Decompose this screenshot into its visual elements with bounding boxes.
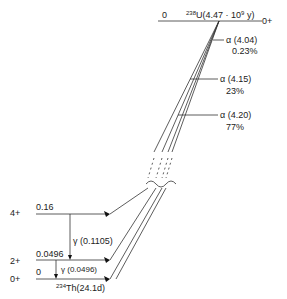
level-0plus-spin: 0+ bbox=[10, 275, 20, 284]
alpha-3-upper bbox=[168, 21, 219, 152]
daughter-mass-number: 234 bbox=[56, 283, 66, 289]
parent-mass-number: 238 bbox=[186, 10, 196, 16]
alpha-2-intensity: 23% bbox=[226, 87, 244, 96]
alpha-3b-upper bbox=[172, 21, 219, 152]
parent-spin: 0+ bbox=[262, 17, 272, 26]
parent-level-energy: 0 bbox=[162, 11, 167, 20]
level-0plus-energy: 0 bbox=[36, 268, 41, 277]
level-4plus-spin: 4+ bbox=[10, 209, 20, 218]
level-2plus-spin: 2+ bbox=[10, 257, 20, 266]
alpha-1-upper bbox=[154, 21, 219, 152]
alpha-3-intensity: 77% bbox=[226, 123, 244, 132]
daughter-nuclide: 234Th(24.1d) bbox=[56, 283, 105, 293]
level-4plus-energy: 0.16 bbox=[36, 203, 54, 212]
halflife-unit: y) bbox=[244, 10, 254, 20]
parent-nuclide: 238U(4.47 · 109 y) bbox=[186, 10, 254, 20]
alpha-1-intensity: 0.23% bbox=[232, 47, 258, 56]
parent-nuclide-label: U(4.47 · 10 bbox=[196, 10, 241, 20]
alpha-2-upper bbox=[162, 21, 219, 152]
break-mark bbox=[146, 181, 176, 187]
level-2plus-energy: 0.0496 bbox=[36, 250, 64, 259]
gamma-1-label: γ (0.1105) bbox=[73, 237, 113, 246]
alpha-3-label: α (4.20) bbox=[220, 111, 251, 120]
gamma-2-label: γ (0.0496) bbox=[61, 266, 97, 274]
daughter-nuclide-label: Th(24.1d) bbox=[66, 283, 105, 293]
alpha-2-label: α (4.15) bbox=[220, 75, 251, 84]
alpha-1-label: α (4.04) bbox=[226, 36, 257, 45]
